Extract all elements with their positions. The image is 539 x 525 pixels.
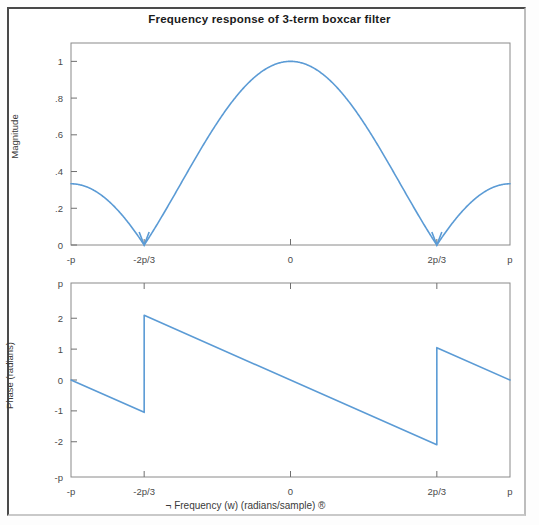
phase-x-tick-label: -2p/3	[133, 486, 155, 497]
phase-x-tick-label: -p	[67, 486, 75, 497]
magnitude-y-tick-label: .4	[55, 166, 63, 177]
phase-x-tick-label: p	[507, 486, 512, 497]
magnitude-x-tick-label: 2p/3	[428, 254, 447, 265]
magnitude-x-tick-label: 0	[288, 254, 293, 265]
phase-y-tick-label: 0	[58, 375, 63, 386]
figure-canvas: Frequency response of 3-term boxcar filt…	[0, 0, 539, 525]
magnitude-x-tick-label: -2p/3	[133, 254, 155, 265]
magnitude-y-tick-label: 0	[58, 240, 63, 251]
phase-y-axis-label: Phase (radians)	[4, 342, 15, 409]
phase-x-tick-label: 0	[288, 486, 293, 497]
phase-y-tick-label: p	[58, 278, 63, 289]
phase-y-tick-label: -2	[55, 436, 63, 447]
phase-plot: Phase (radians) p210-1-2-p-p-2p/302p/3p …	[0, 275, 539, 525]
magnitude-x-tick-label: p	[507, 254, 512, 265]
magnitude-y-tick-label: 1	[58, 56, 63, 67]
frequency-x-axis-label: ¬ Frequency (w) (radians/sample) ®	[0, 500, 515, 511]
magnitude-curve	[71, 61, 510, 245]
phase-y-tick-label: -p	[55, 472, 63, 483]
magnitude-plot: Magnitude 0.2.4.6.81-p-2p/302p/3p	[0, 35, 539, 280]
phase-y-tick-label: 1	[58, 344, 63, 355]
phase-y-tick-label: 2	[58, 313, 63, 324]
phase-svg: p210-1-2-p-p-2p/302p/3p	[0, 275, 539, 497]
magnitude-y-tick-label: .6	[55, 129, 63, 140]
magnitude-y-tick-label: .8	[55, 93, 63, 104]
phase-x-tick-label: 2p/3	[428, 486, 447, 497]
magnitude-axes-box	[71, 43, 510, 245]
magnitude-y-axis-label: Magnitude	[9, 114, 20, 158]
magnitude-x-tick-label: -p	[67, 254, 75, 265]
magnitude-svg: 0.2.4.6.81-p-2p/302p/3p	[0, 35, 539, 280]
magnitude-y-tick-label: .2	[55, 203, 63, 214]
phase-curve	[71, 315, 510, 444]
phase-y-tick-label: -1	[55, 405, 63, 416]
figure-title: Frequency response of 3-term boxcar filt…	[0, 13, 539, 25]
